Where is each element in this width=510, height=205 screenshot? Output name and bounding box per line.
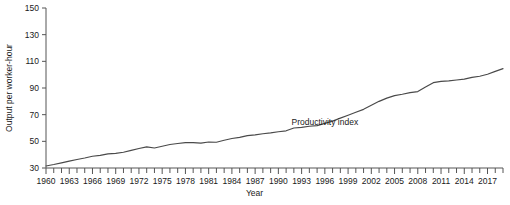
- x-axis-tick-label: 1984: [222, 176, 241, 186]
- x-axis-tick-label: 1960: [37, 176, 56, 186]
- x-axis-title: Year: [246, 188, 263, 198]
- x-axis-tick-label: 1987: [246, 176, 265, 186]
- x-axis-tick-label: 1999: [339, 176, 358, 186]
- y-axis-tick-label: 30: [30, 163, 40, 173]
- data-series-group: [46, 69, 503, 166]
- x-axis-tick-label: 1981: [199, 176, 218, 186]
- y-axis-tick-label: 150: [25, 3, 39, 13]
- y-axis-tick-label: 110: [25, 56, 39, 66]
- x-axis: 1960196319661969197219751978198119841987…: [37, 168, 503, 186]
- x-axis-tick-label: 1975: [153, 176, 172, 186]
- y-axis-tick-label: 90: [30, 83, 40, 93]
- y-axis-title: Output per worker-hour: [4, 44, 14, 132]
- x-axis-tick-label: 1966: [83, 176, 102, 186]
- x-axis-tick-label: 2017: [478, 176, 497, 186]
- x-axis-tick-label: 1978: [176, 176, 195, 186]
- y-axis-tick-label: 70: [30, 110, 40, 120]
- x-axis-tick-label: 1963: [60, 176, 79, 186]
- chart-svg: 30507090110130150 1960196319661969197219…: [0, 0, 510, 205]
- x-axis-tick-label: 1996: [315, 176, 334, 186]
- x-axis-tick-label: 1969: [106, 176, 125, 186]
- x-axis-tick-label: 2008: [408, 176, 427, 186]
- annotation-group: Productivity index: [292, 117, 359, 127]
- productivity-line-chart: 30507090110130150 1960196319661969197219…: [0, 0, 510, 205]
- x-axis-tick-label: 1993: [292, 176, 311, 186]
- x-axis-tick-label: 2002: [362, 176, 381, 186]
- x-axis-tick-label: 1990: [269, 176, 288, 186]
- y-axis-tick-label: 50: [30, 136, 40, 146]
- series-line: [46, 69, 503, 166]
- y-axis-tick-label: 130: [25, 30, 39, 40]
- x-axis-tick-label: 1972: [129, 176, 148, 186]
- x-axis-tick-label: 2011: [432, 176, 451, 186]
- y-axis: 30507090110130150: [25, 3, 46, 173]
- x-axis-tick-label: 2014: [455, 176, 474, 186]
- x-axis-tick-label: 2005: [385, 176, 404, 186]
- series-annotation-label: Productivity index: [292, 117, 359, 127]
- axis-title-group: Output per worker-hourYear: [4, 44, 263, 198]
